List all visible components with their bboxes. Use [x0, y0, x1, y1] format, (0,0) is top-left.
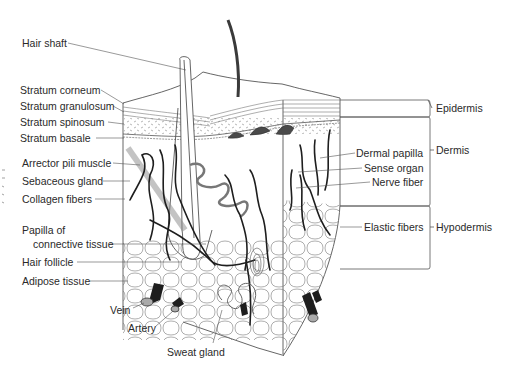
label-stratum-corneum: Stratum corneum: [20, 84, 101, 96]
stratum-spinosum-texture: [124, 118, 339, 134]
label-dermal-papilla: Dermal papilla: [356, 147, 423, 159]
label-stratum-granulosum: Stratum granulosum: [20, 100, 115, 112]
label-adipose-tissue: Adipose tissue: [22, 275, 90, 287]
label-stratum-spinosum: Stratum spinosum: [20, 116, 105, 128]
label-sweat-gland: Sweat gland: [167, 346, 225, 358]
hair-strand: [228, 20, 239, 97]
label-hair-follicle: Hair follicle: [22, 256, 73, 268]
label-papilla-of: Papilla of: [22, 224, 65, 236]
skin-illustration: [0, 0, 513, 374]
label-artery: Artery: [128, 322, 156, 334]
label-hair-shaft: Hair shaft: [22, 37, 67, 49]
label-collagen-fibers: Collagen fibers: [22, 193, 92, 205]
label-arrector-pili-muscle: Arrector pili muscle: [22, 157, 111, 169]
hair-follicle: [168, 57, 212, 260]
label-nerve-fiber: Nerve fiber: [372, 176, 423, 188]
label-stratum-basale: Stratum basale: [20, 132, 91, 144]
label-dermis: Dermis: [436, 144, 469, 156]
label-epidermis: Epidermis: [436, 102, 483, 114]
skin-diagram: Hair shaft Stratum corneum Stratum granu…: [0, 0, 513, 374]
edge-marks: [2, 170, 5, 203]
label-elastic-fibers: Elastic fibers: [364, 221, 424, 233]
label-connective-tissue: connective tissue: [33, 238, 114, 250]
label-sebaceous-gland: Sebaceous gland: [22, 175, 103, 187]
label-hypodermis: Hypodermis: [436, 221, 492, 233]
label-vein: Vein: [110, 304, 130, 316]
label-sense-organ: Sense organ: [364, 162, 424, 174]
